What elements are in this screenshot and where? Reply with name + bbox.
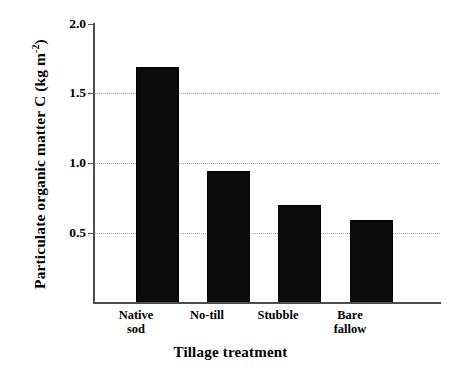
bar-native-sod[interactable] [136, 67, 179, 302]
x-tick-label-stubble-line1: Stubble [258, 308, 299, 322]
x-tick-label-no-till-line1: No-till [190, 308, 224, 322]
bar-stubble[interactable] [278, 205, 321, 302]
y-axis-tick-labels: 2.0 1.5 1.0 0.5 [52, 0, 86, 372]
bar-chart-figure: Particulate organic matter C (kg m-2) 2.… [0, 0, 461, 372]
bar-no-till[interactable] [207, 171, 250, 302]
x-tick-label-bare-fallow: Bare fallow [304, 308, 396, 336]
bar-bare-fallow[interactable] [350, 220, 393, 302]
y-axis-title-paren: ) [31, 39, 48, 44]
y-tick-label-2-0: 2.0 [52, 17, 86, 30]
x-tick-label-bare-fallow-line2: fallow [304, 322, 396, 336]
y-tick-label-1-5: 1.5 [52, 86, 86, 99]
plot-area [94, 24, 440, 302]
x-tick-label-bare-fallow-line1: Bare [337, 308, 362, 322]
y-tick-label-1-0: 1.0 [52, 156, 86, 169]
y-axis-title-text: Particulate organic matter C (kg m [31, 53, 48, 289]
x-tick-label-native-sod-line2: sod [90, 322, 182, 336]
y-axis-title: Particulate organic matter C (kg m-2) [28, 14, 52, 314]
y-axis-title-superscript: -2 [30, 44, 41, 53]
x-axis-line [93, 302, 441, 304]
y-tick-label-0-5: 0.5 [52, 226, 86, 239]
x-tick-label-native-sod-line1: Native [119, 308, 154, 322]
x-axis-title: Tillage treatment [0, 344, 461, 361]
